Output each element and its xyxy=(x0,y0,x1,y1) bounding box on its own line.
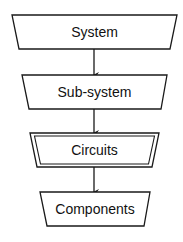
node-circuits-label: Circuits xyxy=(30,142,159,158)
node-components-label: Components xyxy=(40,201,150,217)
node-system-label: System xyxy=(12,24,177,40)
node-subsystem-label: Sub-system xyxy=(22,84,167,100)
